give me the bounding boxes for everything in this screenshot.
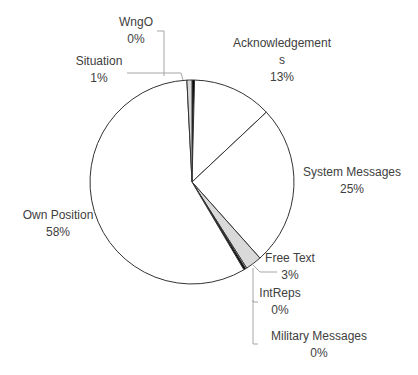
slice-name: Acknowledgement	[233, 36, 332, 50]
slice-label-military-messages: Military Messages0%	[271, 329, 367, 360]
slice-percent: 25%	[340, 182, 364, 196]
slice-label-own-position: Own Position58%	[23, 208, 94, 239]
slice-label-intreps: IntReps0%	[259, 286, 300, 317]
slice-name: Situation	[76, 54, 123, 68]
leader-line-wngo	[157, 31, 164, 76]
slice-name: WngO	[119, 15, 153, 29]
slice-percent: 1%	[90, 71, 108, 85]
slice-percent: 0%	[127, 32, 145, 46]
slice-name: Free Text	[265, 251, 315, 265]
leader-line-intreps	[253, 268, 258, 302]
pie-slices	[90, 80, 294, 284]
slice-label-wngo: WngO0%	[119, 15, 153, 46]
leader-line-situation	[127, 73, 183, 80]
slice-percent: 13%	[270, 70, 294, 84]
leader-line-military-messages	[253, 300, 258, 344]
slice-name: System Messages	[303, 165, 401, 179]
slice-percent: 3%	[281, 268, 299, 282]
slice-percent: 0%	[310, 346, 328, 360]
slice-label-system-messages: System Messages25%	[303, 165, 401, 196]
slice-percent: 58%	[46, 225, 70, 239]
slice-name: Military Messages	[271, 329, 367, 343]
slice-label-situation: Situation1%	[76, 54, 123, 85]
slice-label-acknowledgements: Acknowledgements13%	[233, 36, 332, 84]
slice-label-free-text: Free Text3%	[265, 251, 315, 282]
pie-chart: WngO0%Acknowledgements13%System Messages…	[0, 0, 418, 375]
leader-line-free-text	[252, 264, 277, 272]
slice-name: Own Position	[23, 208, 94, 222]
slice-percent: 0%	[271, 303, 289, 317]
slice-name: IntReps	[259, 286, 300, 300]
slice-name: s	[279, 53, 285, 67]
